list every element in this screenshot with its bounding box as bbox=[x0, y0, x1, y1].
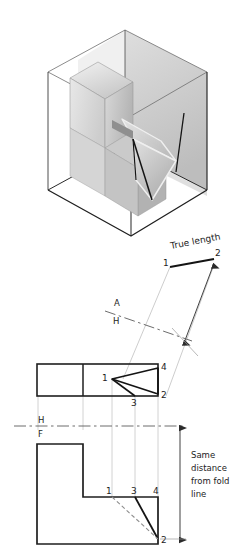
aux-point-2-label: 2 bbox=[215, 248, 221, 258]
projector-aux-from-point-2 bbox=[166, 265, 214, 396]
note-line-3: from fold bbox=[191, 476, 229, 486]
front-view-point-4-label: 4 bbox=[153, 486, 159, 496]
top-view-point-4-label: 4 bbox=[161, 362, 167, 372]
auxiliary-view: True length 1 2 bbox=[123, 231, 221, 396]
top-view-outline bbox=[37, 364, 158, 396]
fold-line-ah: A H bbox=[105, 298, 192, 341]
vertical-projectors bbox=[38, 379, 158, 544]
true-length-auxiliary-view-figure: True length 1 2 A H 1 4 2 3 H F bbox=[0, 0, 250, 556]
top-view-point-1-label: 1 bbox=[102, 373, 108, 383]
top-view: 1 4 2 3 bbox=[37, 362, 167, 408]
fold-line-hf: H F bbox=[14, 415, 185, 439]
same-distance-dimension: Same distance from fold line bbox=[160, 428, 229, 540]
true-length-line bbox=[170, 259, 214, 267]
front-view-point-2-label: 2 bbox=[161, 535, 167, 545]
front-view-edge-3-2 bbox=[135, 497, 158, 539]
front-view-point-1-label: 1 bbox=[106, 486, 112, 496]
true-length-label: True length bbox=[168, 231, 221, 251]
top-view-point-3-label: 3 bbox=[131, 398, 137, 408]
fold-line-ah-upper-label: A bbox=[114, 298, 120, 308]
top-view-inclined-edges bbox=[112, 368, 158, 394]
isometric-pictorial bbox=[48, 30, 207, 236]
front-view: 1 3 4 2 bbox=[37, 444, 167, 545]
top-view-point-2-label: 2 bbox=[161, 390, 167, 400]
fold-line-ah-lower-label: H bbox=[113, 316, 119, 326]
fold-line-hf-lower-label: F bbox=[38, 429, 43, 439]
aux-dimension-line bbox=[184, 266, 213, 343]
note-line-4: line bbox=[191, 489, 206, 499]
aux-dimension-extension bbox=[172, 328, 198, 356]
front-view-outline bbox=[37, 444, 158, 544]
fold-line-hf-upper-label: H bbox=[38, 415, 44, 425]
aux-point-1-label: 1 bbox=[163, 258, 169, 268]
front-view-point-3-label: 3 bbox=[131, 486, 137, 496]
note-line-1: Same bbox=[191, 450, 215, 460]
note-line-2: distance bbox=[191, 463, 227, 473]
top-view-edge-1-3 bbox=[112, 379, 135, 396]
front-view-hidden-edge-1-2 bbox=[112, 497, 158, 539]
